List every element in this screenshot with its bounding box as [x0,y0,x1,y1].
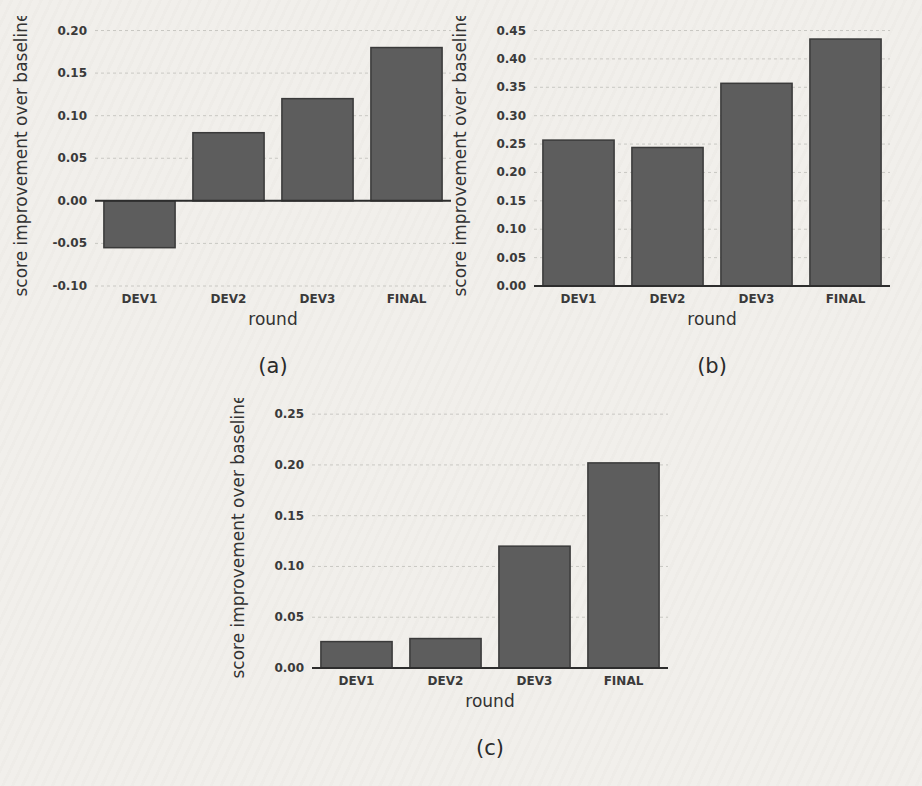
chart-panel-a: -0.10-0.050.000.050.100.150.20DEV1DEV2DE… [11,16,461,378]
bar-chart-svg: 0.000.050.100.150.200.250.300.350.400.45… [450,16,900,332]
y-tick-label: 0.25 [496,137,526,151]
x-axis-label: round [687,309,736,329]
y-tick-label: -0.05 [52,236,87,250]
panel-label-c: (c) [312,736,668,760]
y-tick-label: 0.25 [274,407,304,421]
bar-final [810,39,881,286]
y-tick-label: 0.10 [496,222,526,236]
y-tick-label: 0.45 [496,24,526,38]
y-tick-label: 0.10 [57,109,87,123]
x-category-label: FINAL [387,292,427,306]
y-tick-label: 0.05 [496,251,526,265]
x-category-label: DEV1 [561,292,597,306]
panel-label-a: (a) [95,354,451,378]
y-tick-label: 0.20 [57,24,87,38]
y-tick-label: 0.35 [496,80,526,94]
panel-label-b: (b) [534,354,890,378]
x-category-label: DEV2 [211,292,247,306]
y-tick-label: 0.05 [57,151,87,165]
x-category-label: DEV1 [122,292,158,306]
chart-panel-c: 0.000.050.100.150.200.25DEV1DEV2DEV3FINA… [228,398,678,760]
bar-dev2 [193,133,264,201]
figure-page: -0.10-0.050.000.050.100.150.20DEV1DEV2DE… [0,0,922,786]
bar-chart-b: 0.000.050.100.150.200.250.300.350.400.45… [450,16,900,332]
x-category-label: DEV1 [339,674,375,688]
bar-dev1 [543,140,614,286]
x-category-label: DEV3 [300,292,336,306]
x-category-label: FINAL [826,292,866,306]
y-tick-label: 0.15 [57,66,87,80]
bar-dev2 [410,639,481,668]
bar-final [588,463,659,668]
x-axis-label: round [465,691,514,711]
y-tick-label: 0.15 [274,509,304,523]
bar-dev2 [632,147,703,286]
x-category-label: DEV2 [650,292,686,306]
bar-dev3 [282,99,353,201]
y-tick-label: 0.15 [496,194,526,208]
bar-dev1 [104,201,175,248]
y-tick-label: 0.05 [274,610,304,624]
y-tick-label: 0.00 [57,194,87,208]
y-axis-label: score improvement over baseline [228,398,248,679]
bar-dev3 [721,83,792,286]
y-tick-label: -0.10 [52,279,87,293]
chart-panel-b: 0.000.050.100.150.200.250.300.350.400.45… [450,16,900,378]
y-tick-label: 0.10 [274,559,304,573]
y-axis-label: score improvement over baseline [450,16,470,297]
y-axis-label: score improvement over baseline [11,16,31,297]
bar-chart-c: 0.000.050.100.150.200.25DEV1DEV2DEV3FINA… [228,398,678,714]
x-category-label: DEV2 [428,674,464,688]
x-category-label: FINAL [604,674,644,688]
y-tick-label: 0.40 [496,52,526,66]
y-tick-label: 0.30 [496,109,526,123]
x-axis-label: round [248,309,297,329]
y-tick-label: 0.20 [274,458,304,472]
bar-dev1 [321,642,392,668]
y-tick-label: 0.00 [274,661,304,675]
bar-chart-a: -0.10-0.050.000.050.100.150.20DEV1DEV2DE… [11,16,461,332]
y-tick-label: 0.00 [496,279,526,293]
y-tick-label: 0.20 [496,165,526,179]
bar-chart-svg: -0.10-0.050.000.050.100.150.20DEV1DEV2DE… [11,16,461,332]
bar-final [371,48,442,201]
x-category-label: DEV3 [739,292,775,306]
bar-chart-svg: 0.000.050.100.150.200.25DEV1DEV2DEV3FINA… [228,398,678,714]
bar-dev3 [499,546,570,668]
x-category-label: DEV3 [517,674,553,688]
